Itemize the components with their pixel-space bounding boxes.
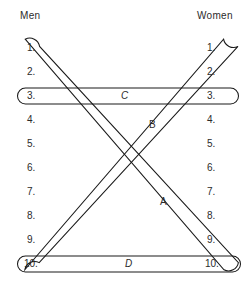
rank-left-10: 10. <box>24 258 38 269</box>
pairing-diagram: Men Women 1. 2. 3. 4. 5. 6. 7. 8. 9. 10.… <box>0 0 250 290</box>
rank-left-4: 4. <box>27 114 35 125</box>
rank-right-5: 5. <box>207 138 215 149</box>
rank-left-9: 9. <box>27 234 35 245</box>
rank-left-7: 7. <box>27 186 35 197</box>
pairing-label-c: C <box>121 90 128 101</box>
rank-left-5: 5. <box>27 138 35 149</box>
rank-right-4: 4. <box>207 114 215 125</box>
rank-right-3: 3. <box>207 90 215 101</box>
pairing-label-b: B <box>149 119 156 130</box>
rank-left-3: 3. <box>27 90 35 101</box>
column-header-women: Women <box>197 10 233 21</box>
rank-right-1: 1. <box>207 42 215 53</box>
rank-left-1: 1. <box>27 42 35 53</box>
column-header-men: Men <box>20 10 40 21</box>
pairing-label-a: A <box>160 196 167 207</box>
rank-left-6: 6. <box>27 162 35 173</box>
rank-right-6: 6. <box>207 162 215 173</box>
rank-right-8: 8. <box>207 210 215 221</box>
rank-right-9: 9. <box>207 234 215 245</box>
rank-right-7: 7. <box>207 186 215 197</box>
rank-left-8: 8. <box>27 210 35 221</box>
rank-left-2: 2. <box>27 66 35 77</box>
rank-right-10: 10. <box>205 258 219 269</box>
rank-right-2: 2. <box>207 66 215 77</box>
pairing-label-d: D <box>125 258 132 269</box>
